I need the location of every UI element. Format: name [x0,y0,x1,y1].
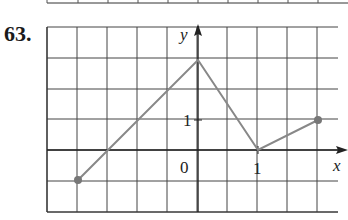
graph: yx011 [0,0,348,220]
x-axis-label: x [332,156,341,175]
y-tick-label: 1 [183,111,192,130]
endpoint-dot [74,176,82,184]
x-tick-label: 1 [253,159,262,178]
endpoint-dot [314,116,322,124]
y-axis-label: y [178,25,188,44]
origin-label: 0 [180,158,189,177]
